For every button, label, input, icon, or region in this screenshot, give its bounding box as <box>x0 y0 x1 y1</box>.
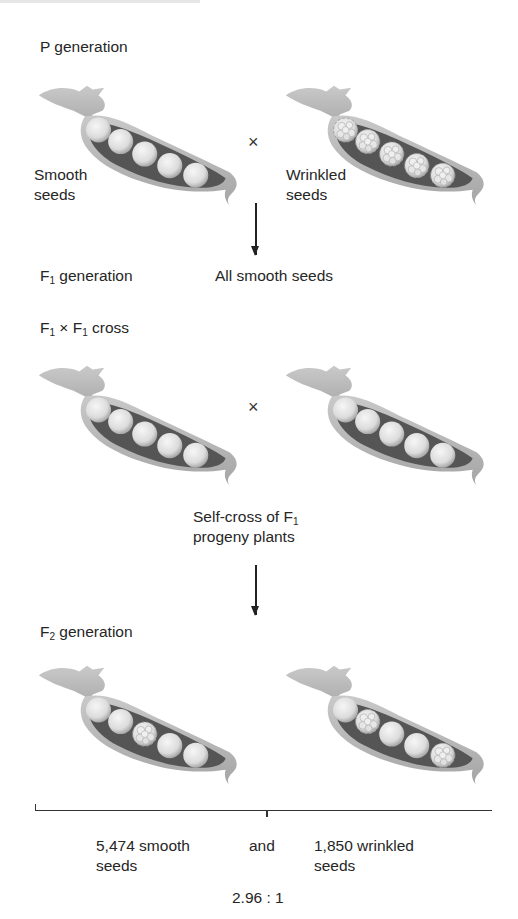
smooth-seeds-label-line2: seeds <box>34 185 75 204</box>
self-cross-caption-line2: progeny plants <box>193 527 295 546</box>
pea-pod-f2-right <box>280 658 490 788</box>
smooth-count-line2: seeds <box>96 856 137 875</box>
pea-pod-f1-right <box>280 358 490 488</box>
bracket-center-tick <box>266 810 268 817</box>
f1-generation-label: F1 generation <box>40 266 133 285</box>
wrinkled-count-line2: seeds <box>314 856 355 875</box>
down-arrow-icon-f1-to-f2 <box>255 565 257 615</box>
wrinkled-seeds-label-line2: seeds <box>286 185 327 204</box>
cropped-header-remnant <box>0 0 200 3</box>
ratio-label: 2.96 : 1 <box>232 888 284 907</box>
p-generation-label: P generation <box>40 37 128 56</box>
self-cross-caption-line1: Self-cross of F1 <box>193 507 298 526</box>
pea-pod-f2-left <box>33 658 243 788</box>
down-arrow-icon-p-to-f1 <box>255 203 257 255</box>
wrinkled-seeds-label-line1: Wrinkled <box>286 165 346 184</box>
f2-generation-label: F2 generation <box>40 622 133 641</box>
and-label: and <box>249 836 275 855</box>
smooth-seeds-label-line1: Smooth <box>34 165 87 184</box>
wrinkled-count-line1: 1,850 wrinkled <box>314 836 414 855</box>
cross-symbol-p: × <box>248 132 259 153</box>
f1-cross-label: F1 × F1 cross <box>40 318 129 337</box>
cross-symbol-f1: × <box>248 397 259 418</box>
f1-result-label: All smooth seeds <box>215 266 333 285</box>
pea-pod-f1-left <box>33 358 243 488</box>
smooth-count-line1: 5,474 smooth <box>96 836 190 855</box>
results-bracket-line <box>35 810 492 811</box>
